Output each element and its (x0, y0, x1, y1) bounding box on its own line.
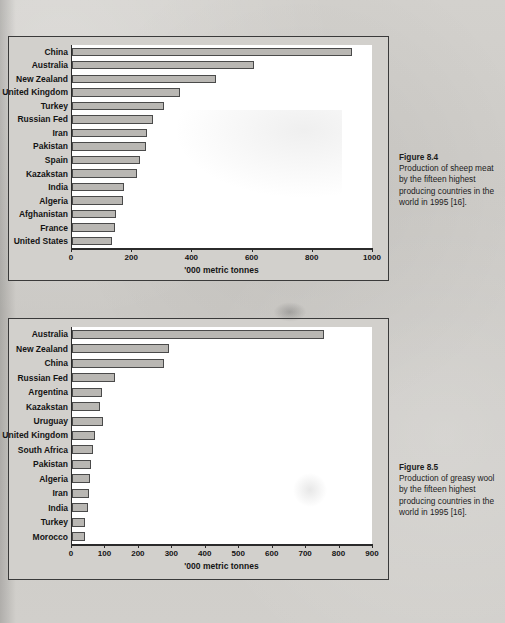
bar-row: Pakistan (72, 457, 372, 471)
figure-8-4-chart-frame: ChinaAustraliaNew ZealandUnited KingdomT… (8, 36, 389, 281)
category-label: India (48, 504, 68, 513)
figure-8-5-bar-group: AustraliaNew ZealandChinaRussian FedArge… (72, 327, 372, 544)
bar-row: Algeria (72, 472, 372, 486)
category-label: Afghanistan (19, 210, 68, 219)
bar (72, 417, 103, 426)
bar (72, 169, 137, 177)
bar-row: Pakistan (72, 140, 372, 154)
x-axis-tick-label: 800 (332, 549, 345, 558)
category-label: South Africa (18, 446, 68, 455)
x-axis-tick-label: 400 (198, 549, 211, 558)
x-axis-tick (372, 248, 373, 252)
bar-row: Argentina (72, 385, 372, 399)
figure-8-4-caption-title: Figure 8.4 (399, 152, 495, 163)
bar (72, 445, 93, 454)
bar-row: Australia (72, 327, 372, 341)
x-axis-tick (71, 248, 72, 252)
bar (72, 183, 124, 191)
category-label: Algeria (39, 197, 68, 206)
x-axis-tick-label: 300 (165, 549, 178, 558)
bar (72, 431, 95, 440)
figure-8-4-caption-body: Production of sheep meat by the fifteen … (399, 163, 494, 207)
category-label: China (44, 48, 68, 57)
bar-row: New Zealand (72, 341, 372, 355)
x-axis-tick (372, 544, 373, 548)
bar-row: United Kingdom (72, 428, 372, 442)
x-axis-tick (104, 544, 105, 548)
x-axis-tick (252, 248, 253, 252)
bar-row: Iran (72, 126, 372, 140)
figure-8-5-caption-title: Figure 8.5 (399, 462, 495, 473)
figure-8-5-plot-area: AustraliaNew ZealandChinaRussian FedArge… (71, 327, 372, 544)
bar-row: Turkey (72, 99, 372, 113)
x-axis-tick (339, 544, 340, 548)
category-label: Russian Fed (17, 374, 68, 383)
x-axis-tick (71, 544, 72, 548)
bar (72, 61, 254, 69)
bar (72, 474, 90, 483)
bar (72, 330, 324, 339)
x-axis-tick (272, 544, 273, 548)
bar-row: India (72, 501, 372, 515)
figure-8-4-bar-group: ChinaAustraliaNew ZealandUnited KingdomT… (72, 45, 372, 248)
x-axis-tick-label: 0 (69, 253, 73, 262)
category-label: Iran (52, 129, 68, 138)
x-axis-tick-label: 600 (265, 549, 278, 558)
bar-row: India (72, 180, 372, 194)
x-axis-tick (312, 248, 313, 252)
category-label: Morocco (33, 533, 68, 542)
bar-row: New Zealand (72, 72, 372, 86)
x-axis-tick (205, 544, 206, 548)
x-axis-tick (238, 544, 239, 548)
category-label: France (40, 224, 68, 233)
category-label: Kazakstan (26, 170, 68, 179)
bar (72, 460, 91, 469)
bar (72, 210, 116, 218)
bar (72, 88, 180, 96)
category-label: Iran (52, 489, 68, 498)
x-axis-tick-label: 200 (125, 253, 138, 262)
bar-row: Algeria (72, 194, 372, 208)
category-label: Argentina (28, 388, 68, 397)
x-axis-tick (171, 544, 172, 548)
bar-row: South Africa (72, 443, 372, 457)
category-label: New Zealand (16, 75, 68, 84)
bar-row: Uruguay (72, 414, 372, 428)
bar (72, 48, 352, 56)
figure-8-5-caption: Figure 8.5 Production of greasy wool by … (399, 462, 495, 518)
bar (72, 373, 115, 382)
category-label: Turkey (41, 102, 68, 111)
category-label: United Kingdom (2, 431, 68, 440)
bar (72, 129, 147, 137)
bar-row: Afghanistan (72, 207, 372, 221)
x-axis-tick-label: 400 (185, 253, 198, 262)
x-axis-tick (191, 248, 192, 252)
figure-8-5-caption-body: Production of greasy wool by the fifteen… (399, 473, 494, 517)
bar-row: Turkey (72, 515, 372, 529)
bar (72, 532, 85, 541)
category-label: Pakistan (33, 460, 68, 469)
figure-8-4-x-axis (71, 248, 373, 250)
x-axis-tick-label: 800 (305, 253, 318, 262)
bar (72, 344, 169, 353)
bar-row: Morocco (72, 530, 372, 544)
bar (72, 115, 153, 123)
bar (72, 503, 88, 512)
x-axis-tick-label: 0 (69, 549, 73, 558)
bar (72, 402, 100, 411)
bar-row: China (72, 45, 372, 59)
bar-row: Kazakstan (72, 399, 372, 413)
category-label: India (48, 183, 68, 192)
bar (72, 142, 146, 150)
category-label: United States (14, 237, 68, 246)
bar-row: France (72, 221, 372, 235)
bar-row: Spain (72, 153, 372, 167)
category-label: Algeria (39, 475, 68, 484)
figure-8-5-x-axis-label: '000 metric tonnes (71, 561, 372, 571)
figure-8-4-x-axis-label: '000 metric tonnes (71, 265, 372, 275)
x-axis-tick (131, 248, 132, 252)
category-label: New Zealand (16, 345, 68, 354)
bar (72, 489, 89, 498)
bar-row: United States (72, 234, 372, 248)
x-axis-tick-label: 500 (232, 549, 245, 558)
